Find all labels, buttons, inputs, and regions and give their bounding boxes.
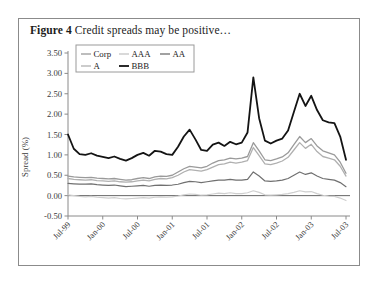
y-tick-label: 3.50 bbox=[47, 48, 62, 58]
figure-caption: Figure 4 Credit spreads may be positive… bbox=[30, 24, 231, 36]
y-tick-label: 2.00 bbox=[47, 109, 62, 119]
series-line-a bbox=[68, 143, 346, 183]
y-tick-label: -0.50 bbox=[44, 211, 62, 221]
figure-label: Figure 4 bbox=[30, 24, 72, 36]
y-axis-title: Spread (%) bbox=[20, 137, 30, 177]
legend-label-corp: Corp bbox=[94, 49, 112, 59]
x-tick-label: Jul-00 bbox=[121, 220, 142, 241]
x-tick-label: Jul-03 bbox=[329, 220, 350, 241]
y-axis: 3.503.002.502.001.501.000.500.00-0.50 bbox=[44, 48, 68, 221]
figure-container: Figure 4 Credit spreads may be positive…… bbox=[18, 18, 360, 266]
chart-legend: CorpAAAAAABBB bbox=[76, 45, 194, 72]
legend-label-aaa: AAA bbox=[132, 49, 152, 59]
x-tick-label: Jan-03 bbox=[294, 220, 316, 242]
y-tick-label: 1.00 bbox=[47, 150, 62, 160]
y-tick-label: 3.00 bbox=[47, 68, 62, 78]
x-tick-label: Jan-00 bbox=[85, 220, 107, 242]
legend-label-aa: AA bbox=[173, 49, 186, 59]
x-tick-label: Jul-02 bbox=[260, 220, 281, 241]
legend-label-bbb: BBB bbox=[132, 61, 150, 71]
x-tick-label: Jul-01 bbox=[190, 220, 211, 241]
x-axis: Jul-99Jan-00Jul-00Jan-01Jul-01Jan-02Jul-… bbox=[51, 216, 350, 242]
chart-plot-area: 3.503.002.502.001.501.000.500.00-0.50 Ju… bbox=[19, 39, 359, 265]
legend-label-a: A bbox=[94, 61, 101, 71]
y-tick-label: 0.50 bbox=[47, 170, 62, 180]
figure-caption-text: Credit spreads may be positive… bbox=[75, 24, 231, 36]
y-tick-label: 1.50 bbox=[47, 130, 62, 140]
y-tick-label: 2.50 bbox=[47, 89, 62, 99]
credit-spreads-line-chart: 3.503.002.502.001.501.000.500.00-0.50 Ju… bbox=[19, 39, 359, 265]
x-tick-label: Jul-99 bbox=[51, 220, 72, 241]
x-tick-label: Jan-02 bbox=[224, 220, 246, 242]
y-tick-label: 0.00 bbox=[47, 191, 62, 201]
x-tick-label: Jan-01 bbox=[155, 220, 177, 242]
series-lines bbox=[68, 77, 346, 200]
